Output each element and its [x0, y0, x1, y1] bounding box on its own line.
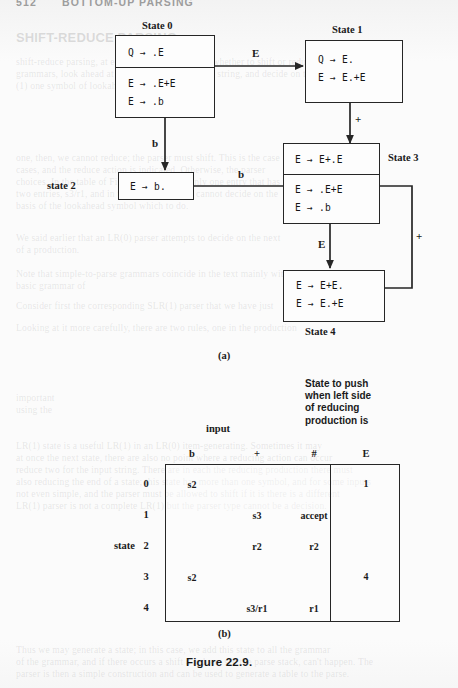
- edge-label-state0-state1: E: [252, 47, 259, 59]
- row-header-0: 0: [136, 478, 156, 489]
- goto-note-line-1: when left side: [305, 390, 371, 402]
- state-0-item-0: Q → .E: [128, 47, 164, 58]
- caption-b: (b): [218, 628, 231, 639]
- input-group-label: input: [188, 423, 248, 434]
- row-header-3: 3: [136, 571, 156, 582]
- figure-caption: Figure 22.9.: [186, 656, 252, 668]
- state-axis-label: state: [114, 540, 135, 551]
- figure-page: 512 BOTTOM-UP PARSING SHIFT-REDUCE PARSI…: [0, 0, 458, 688]
- state-4-box: E → E+E. E → E.+E: [283, 270, 385, 322]
- state-3-item-1: E → .E+E: [295, 184, 343, 195]
- edge-label-state3-state2: b: [238, 168, 244, 180]
- state-0-label: State 0: [142, 20, 173, 31]
- state-3-kernel-divider: [284, 174, 379, 175]
- state-0-kernel-divider: [116, 67, 214, 68]
- col-header-E: E: [352, 448, 380, 459]
- goto-note-line-2: of reducing: [305, 402, 371, 414]
- cell-3-b: s2: [178, 572, 206, 583]
- row-header-2: 2: [136, 540, 156, 551]
- state-3-box: E → E+.E E → .E+E E → .b: [283, 143, 380, 224]
- state-1-item-1: E → E.+E: [318, 72, 366, 83]
- caption-a: (a): [218, 350, 230, 361]
- state-3-item-0: E → E+.E: [295, 154, 343, 165]
- cell-1-plus: s3: [243, 510, 271, 521]
- state-4-item-0: E → E+E.: [296, 280, 344, 291]
- cell-0-E: 1: [352, 478, 380, 489]
- state-3-item-2: E → .b: [295, 202, 331, 213]
- state-1-label: State 1: [332, 24, 363, 35]
- state-3-label: State 3: [388, 152, 419, 163]
- edge-label-state1-state3: +: [355, 113, 361, 125]
- col-header-b: b: [178, 448, 206, 459]
- state-4-item-1: E → E.+E: [296, 298, 344, 309]
- cell-2-hash: r2: [300, 541, 328, 552]
- goto-group-note: State to push when left side of reducing…: [305, 378, 371, 427]
- col-header-hash: #: [300, 448, 328, 459]
- goto-note-line-3: production is: [305, 415, 371, 427]
- edge-label-state4-state3: +: [416, 230, 422, 242]
- row-header-4: 4: [136, 602, 156, 613]
- cell-0-b: s2: [178, 479, 206, 490]
- edge-label-state3-state4: E: [318, 238, 325, 250]
- state-1-box: Q → E. E → E.+E: [305, 40, 403, 103]
- state-4-label: State 4: [305, 326, 336, 337]
- cell-1-hash: accept: [286, 510, 342, 521]
- cell-3-E: 4: [352, 571, 380, 582]
- state-1-item-0: Q → E.: [318, 54, 354, 65]
- col-header-plus: +: [243, 448, 271, 459]
- parse-table-goto-divider: [330, 464, 331, 622]
- state-0-box: Q → .E E → .E+E E → .b: [115, 35, 215, 118]
- cell-4-plus: s3/r1: [234, 603, 280, 614]
- cell-2-plus: r2: [243, 541, 271, 552]
- row-header-1: 1: [136, 509, 156, 520]
- cell-4-hash: r1: [300, 603, 328, 614]
- state-2-label: state 2: [47, 180, 76, 191]
- state-2-item-0: E → b.: [130, 181, 166, 192]
- state-2-box: E → b.: [118, 172, 194, 200]
- state-0-item-2: E → .b: [128, 96, 164, 107]
- state-0-item-1: E → .E+E: [128, 78, 176, 89]
- edge-label-state0-state2: b: [152, 137, 158, 149]
- goto-note-line-0: State to push: [305, 378, 371, 390]
